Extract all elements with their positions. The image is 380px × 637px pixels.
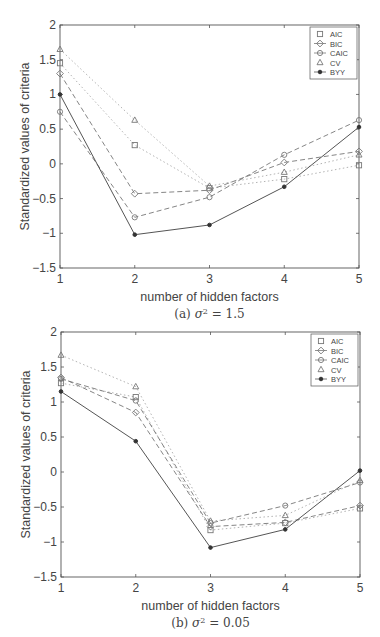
y-axis-label: Standardized values of criteria — [18, 62, 32, 230]
bic-line — [61, 378, 360, 527]
legend-label: BYY — [331, 375, 346, 384]
byy-marker — [318, 70, 322, 74]
y-axis-label: Standardized values of criteria — [19, 370, 33, 538]
y-tick-label: −1.5 — [32, 261, 56, 275]
y-tick-label: 1.5 — [39, 53, 56, 67]
y-tick-label: 0.5 — [40, 430, 57, 444]
x-tick-label: 5 — [357, 581, 364, 595]
figure-caption: (a) σ2 = 1.5 — [174, 307, 244, 321]
legend-label: CAIC — [330, 49, 349, 58]
x-tick-label: 4 — [282, 581, 289, 595]
y-tick-label: 0 — [50, 465, 57, 479]
legend-label: CV — [331, 366, 341, 375]
bic-line — [60, 74, 359, 194]
series-byy — [58, 93, 361, 237]
x-tick-label: 2 — [132, 581, 139, 595]
series-bic — [58, 374, 364, 530]
byy-marker — [282, 185, 286, 189]
byy-marker — [358, 469, 362, 473]
bic-marker — [131, 190, 138, 197]
chart-b: 21.510.50−0.5−1−1.512345number of hidden… — [0, 320, 380, 637]
y-tick-label: 0 — [49, 157, 56, 171]
byy-marker — [283, 528, 287, 532]
y-tick-label: 1.5 — [40, 360, 57, 374]
cv-marker — [132, 117, 138, 122]
byy-line — [60, 94, 359, 234]
byy-marker — [208, 223, 212, 227]
legend: AICBICCAICCVBYY — [311, 334, 358, 386]
aic-line — [60, 63, 359, 188]
figure-a: 21.510.50−0.5−1−1.512345number of hidden… — [0, 0, 380, 324]
figure-caption: (b) σ2 = 0.05 — [171, 616, 250, 631]
y-tick-label: 1 — [50, 395, 57, 409]
cv-marker — [282, 512, 288, 517]
legend-label: CAIC — [331, 356, 350, 365]
y-tick-label: −1.5 — [33, 570, 57, 584]
y-tick-label: 0.5 — [39, 122, 56, 136]
x-axis-label: number of hidden factors — [140, 290, 278, 304]
y-tick-label: −1 — [42, 226, 56, 240]
caic-line — [61, 379, 360, 523]
y-tick-label: −0.5 — [33, 500, 57, 514]
series-caic — [58, 376, 362, 525]
series-aic — [57, 61, 361, 191]
caic-marker — [207, 195, 212, 200]
byy-marker — [59, 390, 63, 394]
figure-b: 21.510.50−0.5−1−1.512345number of hidden… — [0, 320, 380, 637]
y-tick-label: 2 — [50, 325, 57, 339]
legend: AICBICCAICCVBYY — [310, 27, 357, 79]
series-caic — [57, 109, 361, 220]
chart-a: 21.510.50−0.5−1−1.512345number of hidden… — [0, 0, 380, 320]
x-tick-label: 3 — [206, 272, 213, 286]
byy-marker — [209, 546, 213, 550]
legend-label: AIC — [330, 30, 343, 39]
y-tick-label: 2 — [49, 18, 56, 32]
cv-marker — [133, 383, 139, 388]
byy-marker — [133, 233, 137, 237]
x-tick-label: 2 — [131, 272, 138, 286]
x-tick-label: 4 — [281, 272, 288, 286]
y-tick-label: −0.5 — [32, 192, 56, 206]
aic-line — [61, 383, 360, 530]
legend-label: CV — [330, 59, 340, 68]
byy-line — [61, 392, 360, 548]
legend-label: BYY — [330, 68, 345, 77]
x-tick-label: 1 — [57, 272, 64, 286]
byy-marker — [58, 93, 62, 97]
series-bic — [57, 70, 363, 197]
x-tick-label: 1 — [58, 581, 65, 595]
byy-marker — [357, 125, 361, 129]
legend-label: AIC — [331, 337, 344, 346]
x-tick-label: 3 — [207, 581, 214, 595]
legend-label: BIC — [330, 40, 343, 49]
x-tick-label: 5 — [356, 272, 363, 286]
legend-label: BIC — [331, 347, 344, 356]
caic-marker — [133, 398, 138, 403]
byy-marker — [319, 377, 323, 381]
y-tick-label: −1 — [43, 535, 57, 549]
y-tick-label: 1 — [49, 87, 56, 101]
series-aic — [58, 381, 362, 533]
x-axis-label: number of hidden factors — [141, 599, 279, 613]
byy-marker — [134, 439, 138, 443]
caic-line — [60, 112, 359, 218]
